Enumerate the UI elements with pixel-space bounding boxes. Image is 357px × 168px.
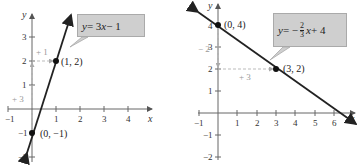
eq-text: − 1 [106, 20, 120, 32]
y-tick-label: 2 [22, 56, 27, 66]
y-tick-label: −2 [203, 152, 213, 162]
denominator: 3 [300, 31, 304, 39]
x-tick-label: 5 [313, 118, 318, 128]
y-tick-label: 3 [22, 32, 27, 42]
point-label: (0, 4) [224, 19, 246, 31]
point-label: (3, 2) [283, 63, 305, 75]
eq-text: = − [283, 24, 298, 36]
x-tick-label: 6 [332, 118, 337, 128]
x-tick-label: 4 [293, 118, 298, 128]
y-tick-label: −1 [203, 130, 213, 140]
point-1-2 [53, 58, 59, 64]
x-tick-label: 1 [54, 114, 59, 124]
y-tick-label: −2 [18, 152, 28, 162]
rise-label: − 2 [198, 44, 210, 54]
eq-text: + 4 [311, 24, 325, 36]
fraction: 2 3 [300, 22, 304, 39]
y-tick-label: 2 [208, 64, 213, 74]
x-tick-label: 2 [78, 114, 83, 124]
y-axis-label: y [21, 9, 27, 20]
point-label: (0, −1) [40, 128, 67, 140]
x-tick-label: 2 [255, 118, 260, 128]
equation-callout-right: y = − 2 3 x + 4 [273, 13, 347, 47]
y-tick-label: 1 [208, 86, 213, 96]
eq-text: = 3 [87, 20, 101, 32]
y-axis-label: y [207, 0, 213, 11]
x-tick-label: 1 [235, 118, 240, 128]
callout-pointer [70, 37, 88, 47]
run-label: + 3 [239, 72, 251, 82]
point-0-neg1 [29, 130, 35, 136]
y-tick-label: −1 [18, 128, 28, 138]
point-label: (1, 2) [61, 56, 83, 68]
rise-label: + 3 [12, 94, 24, 104]
x-tick-label: 4 [126, 114, 131, 124]
x-axis-label: x [147, 113, 153, 124]
point-3-2 [273, 66, 279, 72]
y-tick-label: 1 [22, 80, 27, 90]
x-tick-label: −1 [5, 114, 15, 124]
equation-callout-left: y = 3 x − 1 [77, 14, 145, 37]
x-tick-label: 3 [102, 114, 107, 124]
callout-pointer [270, 47, 290, 60]
run-label: + 1 [36, 47, 48, 57]
x-tick-label: 3 [274, 118, 279, 128]
x-tick-label: −1 [194, 118, 204, 128]
point-0-4 [215, 22, 221, 28]
